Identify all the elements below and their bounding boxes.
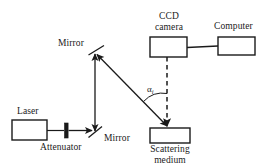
scattering-medium-box — [150, 128, 190, 143]
laser-label: Laser — [17, 106, 39, 117]
ccd-camera-label-line1: CCD — [159, 11, 179, 21]
mirror-upper-label: Mirror — [58, 38, 84, 49]
scattering-medium-label: Scattering medium — [145, 144, 195, 165]
ccd-camera-label: CCD camera — [145, 11, 193, 32]
optical-setup-diagram: Laser Attenuator Mirror Mirror CCD camer… — [0, 0, 268, 168]
attenuator-label: Attenuator — [40, 142, 82, 153]
computer-box — [218, 37, 255, 55]
incidence-angle-label: αi — [147, 84, 154, 98]
ccd-camera-box — [150, 37, 187, 57]
ccd-camera-label-line2: camera — [155, 22, 183, 32]
computer-label: Computer — [214, 21, 253, 32]
mirror-upper-surface — [89, 46, 105, 56]
scattering-medium-label-line1: Scattering — [150, 144, 190, 154]
mirror-lower-label: Mirror — [104, 133, 130, 144]
scattering-medium-label-line2: medium — [154, 155, 186, 165]
cable-ccd-to-computer — [187, 46, 218, 48]
laser-box — [12, 120, 47, 140]
attenuator-element — [65, 123, 69, 138]
angle-subscript: i — [152, 88, 154, 95]
beam-upper-mirror-to-scattering-medium — [97, 55, 167, 127]
